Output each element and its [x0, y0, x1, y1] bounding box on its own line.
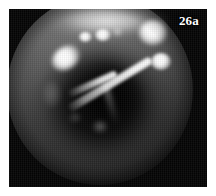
field-vignette: [9, 9, 193, 185]
endoscopic-photograph: 26a: [9, 9, 207, 187]
figure-plate: 26a: [0, 0, 216, 196]
figure-label: 26a: [179, 13, 199, 29]
